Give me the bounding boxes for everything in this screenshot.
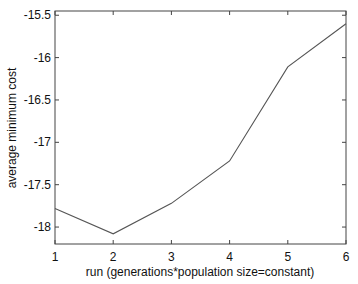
x-tick-label: 4 bbox=[226, 250, 233, 264]
plot-frame bbox=[55, 11, 346, 244]
y-tick-label: -16.5 bbox=[24, 93, 52, 107]
y-axis-label: average minimum cost bbox=[5, 67, 19, 188]
y-tick-label: -15.5 bbox=[24, 8, 52, 22]
y-axis-ticks: -15.5-16-16.5-17-17.5-18 bbox=[24, 8, 346, 234]
x-tick-label: 2 bbox=[110, 250, 117, 264]
x-tick-label: 6 bbox=[343, 250, 350, 264]
x-tick-label: 5 bbox=[284, 250, 291, 264]
line-chart: -15.5-16-16.5-17-17.5-18 123456 run (gen… bbox=[0, 0, 358, 284]
x-tick-label: 1 bbox=[52, 250, 59, 264]
y-tick-label: -18 bbox=[34, 220, 52, 234]
x-axis-label: run (generations*population size=constan… bbox=[86, 265, 314, 279]
x-tick-label: 3 bbox=[168, 250, 175, 264]
data-line bbox=[55, 24, 346, 234]
y-tick-label: -17 bbox=[34, 135, 52, 149]
y-tick-label: -17.5 bbox=[24, 178, 52, 192]
y-tick-label: -16 bbox=[34, 51, 52, 65]
